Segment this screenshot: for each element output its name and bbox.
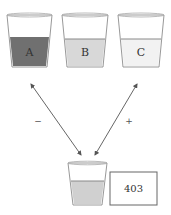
plus-sign: + [125,116,133,126]
cup-a-label: A [25,46,35,59]
cup-a: A [7,13,52,67]
result-box: 403 [110,172,157,205]
cup-b: B [62,13,108,67]
result-value: 403 [124,183,143,194]
cup-c: C [118,13,164,67]
result-cup [68,161,107,205]
mixing-diagram: A B C − + 403 [0,0,171,215]
minus-sign: − [34,116,42,126]
cup-c-label: C [137,46,145,59]
cup-b-label: B [81,46,89,59]
result-cup-liquid [71,181,104,204]
